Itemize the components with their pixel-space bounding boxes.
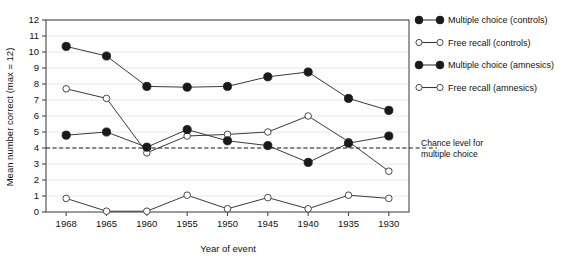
y-tick-label: 9: [34, 62, 39, 73]
y-axis-title: Mean number correct (max = 12): [4, 48, 15, 187]
data-point-filled: [344, 139, 352, 147]
y-tick-label: 2: [34, 174, 39, 185]
data-point-open: [224, 206, 231, 213]
legend-label: Free recall (amnesics): [448, 83, 537, 93]
y-tick-label: 4: [34, 142, 39, 153]
data-point-filled: [264, 73, 272, 81]
x-tick-label: 1930: [378, 218, 399, 229]
data-point-filled: [102, 52, 110, 60]
legend-marker-filled: [415, 16, 423, 24]
data-point-open: [103, 208, 110, 215]
legend-marker-open: [437, 39, 443, 45]
data-point-filled: [62, 42, 70, 50]
data-point-filled: [304, 68, 312, 76]
data-point-filled: [102, 128, 110, 136]
data-point-open: [103, 95, 110, 102]
y-tick-label: 0: [34, 206, 39, 217]
legend-marker-open: [416, 39, 422, 45]
data-point-filled: [304, 158, 312, 166]
y-tick-label: 10: [28, 46, 39, 57]
data-point-filled: [385, 106, 393, 114]
x-tick-label: 1935: [338, 218, 359, 229]
legend-label: Multiple choice (controls): [448, 15, 548, 25]
x-tick-label: 1960: [136, 218, 157, 229]
data-point-open: [386, 195, 393, 202]
y-tick-label: 6: [34, 110, 39, 121]
data-point-filled: [223, 137, 231, 145]
data-point-filled: [344, 94, 352, 102]
y-tick-label: 11: [29, 30, 39, 41]
x-tick-label: 1965: [96, 218, 117, 229]
data-point-open: [345, 192, 352, 199]
legend-marker-open: [437, 84, 443, 90]
data-point-open: [386, 168, 393, 175]
y-tick-label: 7: [34, 94, 39, 105]
data-point-open: [63, 195, 70, 202]
data-point-filled: [183, 126, 191, 134]
data-point-open: [184, 192, 191, 199]
data-point-open: [305, 206, 312, 213]
y-tick-label: 8: [34, 78, 39, 89]
data-point-filled: [223, 82, 231, 90]
data-point-open: [144, 208, 151, 215]
chance-level-annotation-line1: Chance level for: [421, 138, 483, 148]
data-point-open: [63, 86, 70, 93]
data-point-open: [265, 129, 272, 136]
chart-figure: 0123456789101112 19681965196019551950194…: [0, 0, 569, 260]
data-point-filled: [62, 131, 70, 139]
chance-level-annotation-line2: multiple choice: [421, 149, 478, 159]
line-chart: 0123456789101112 19681965196019551950194…: [0, 0, 569, 260]
x-tick-label: 1945: [257, 218, 278, 229]
data-point-filled: [264, 142, 272, 150]
legend-marker-filled: [415, 61, 423, 69]
legend-marker-filled: [436, 61, 444, 69]
y-tick-label: 12: [28, 14, 39, 25]
data-point-filled: [143, 143, 151, 151]
y-tick-label: 3: [34, 158, 39, 169]
data-point-filled: [385, 132, 393, 140]
data-point-filled: [183, 83, 191, 91]
legend-label: Free recall (controls): [448, 38, 531, 48]
data-point-open: [265, 194, 272, 201]
y-tick-label: 5: [34, 126, 39, 137]
legend-marker-filled: [436, 16, 444, 24]
x-axis-title: Year of event: [200, 243, 256, 254]
x-tick-label: 1955: [177, 218, 198, 229]
x-tick-label: 1950: [217, 218, 238, 229]
legend-label: Multiple choice (amnesics): [448, 60, 554, 70]
x-tick-label: 1968: [56, 218, 77, 229]
data-point-filled: [143, 82, 151, 90]
legend-marker-open: [416, 84, 422, 90]
x-tick-label: 1940: [298, 218, 319, 229]
data-point-open: [305, 113, 312, 120]
y-tick-label: 1: [34, 190, 39, 201]
